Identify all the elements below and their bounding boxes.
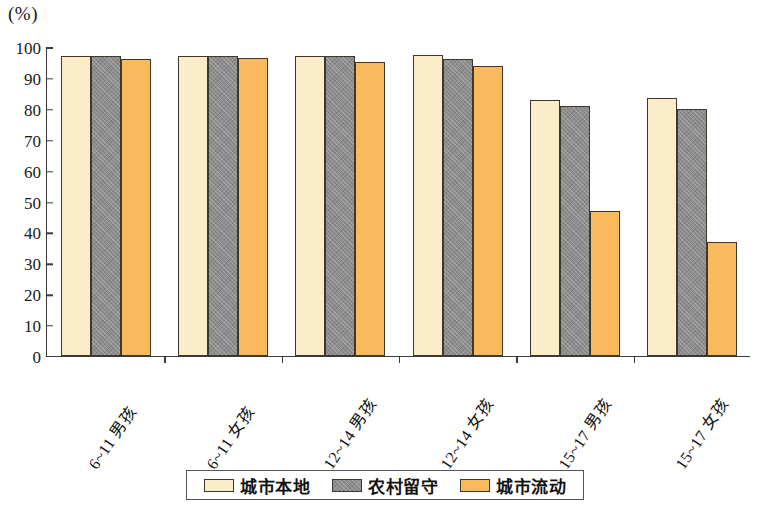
legend-label: 城市本地 xyxy=(240,473,310,498)
y-axis-tick-label: 0 xyxy=(1,349,41,366)
bar-group xyxy=(164,48,281,356)
y-axis-tick-label: 60 xyxy=(1,163,41,180)
x-axis-tick-mark xyxy=(516,357,517,363)
bar-group xyxy=(399,48,516,356)
y-axis-tick-mark xyxy=(46,325,53,326)
bar xyxy=(238,58,268,356)
bar xyxy=(121,59,151,356)
y-axis-tick-label: 30 xyxy=(1,256,41,273)
bar-group xyxy=(634,48,751,356)
y-axis-tick-label: 70 xyxy=(1,132,41,149)
bar-chart: (%) 1009080706050403020100 城市本地农村留守城市流动 … xyxy=(0,0,757,507)
bar-group xyxy=(282,48,399,356)
bar xyxy=(590,211,620,356)
x-axis-category-label: 15~17 女孩 xyxy=(668,393,733,473)
y-axis-tick-label: 90 xyxy=(1,70,41,87)
bar xyxy=(647,98,677,356)
orange-swatch xyxy=(460,479,490,492)
bar xyxy=(355,62,385,356)
bar xyxy=(443,59,473,356)
y-axis-tick-label: 50 xyxy=(1,194,41,211)
legend-item: 城市流动 xyxy=(460,473,566,498)
y-axis-tick-mark xyxy=(46,109,53,110)
bar xyxy=(560,106,590,356)
x-axis-tick-mark xyxy=(164,357,165,363)
bar xyxy=(91,56,121,356)
legend-item: 农村留守 xyxy=(332,473,438,498)
legend-label: 农村留守 xyxy=(368,473,438,498)
bar xyxy=(208,56,238,356)
y-axis-tick-label: 100 xyxy=(1,40,41,57)
x-axis-tick-mark xyxy=(399,357,400,363)
y-axis-tick-mark xyxy=(46,264,53,265)
y-axis-tick-labels: 1009080706050403020100 xyxy=(0,0,41,507)
y-axis-tick-label: 40 xyxy=(1,225,41,242)
chart-legend: 城市本地农村留守城市流动 xyxy=(186,470,584,500)
gray-swatch xyxy=(332,479,362,492)
bar xyxy=(61,56,91,356)
bar xyxy=(677,109,707,356)
y-axis-tick-mark xyxy=(46,171,53,172)
bar xyxy=(325,56,355,356)
legend-label: 城市流动 xyxy=(496,473,566,498)
x-axis-category-label: 15~17 男孩 xyxy=(551,393,616,473)
cream-swatch xyxy=(204,479,234,492)
y-axis-tick-mark xyxy=(46,140,53,141)
y-axis-tick-mark xyxy=(46,294,53,295)
x-axis-category-label: 6~11 女孩 xyxy=(199,401,259,474)
bar-group xyxy=(47,48,164,356)
bar xyxy=(413,55,443,356)
bar xyxy=(707,242,737,356)
bar xyxy=(295,56,325,356)
x-axis-category-label: 12~14 男孩 xyxy=(316,393,381,473)
x-axis-tick-mark xyxy=(634,357,635,363)
legend-item: 城市本地 xyxy=(204,473,310,498)
bar xyxy=(178,56,208,356)
y-axis-tick-mark xyxy=(46,233,53,234)
y-axis-tick-mark xyxy=(46,78,53,79)
x-axis-tick-mark xyxy=(282,357,283,363)
plot-area xyxy=(46,48,750,357)
y-axis-tick-label: 20 xyxy=(1,287,41,304)
bar xyxy=(473,66,503,356)
bar-group xyxy=(516,48,633,356)
x-axis-category-label: 12~14 女孩 xyxy=(433,393,498,473)
y-axis-tick-label: 80 xyxy=(1,101,41,118)
bar xyxy=(530,100,560,356)
y-axis-tick-label: 10 xyxy=(1,318,41,335)
x-axis-category-label: 6~11 男孩 xyxy=(81,401,141,474)
y-axis-tick-mark xyxy=(46,202,53,203)
